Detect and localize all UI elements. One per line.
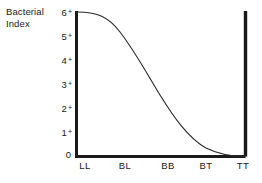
x-tick-bt: BT [200,160,213,171]
plot-area [0,0,262,183]
x-tick-tt: TT [237,160,249,171]
x-tick-bb: BB [161,160,174,171]
axis-frame-left-bottom [77,11,246,157]
x-tick-ll: LL [79,160,90,171]
bacterial-index-chart: Bacterial Index 6+ 5+ 4+ 3+ 2+ 1+ 0 LL B… [0,0,262,183]
bacterial-index-curve [77,12,244,156]
x-tick-bl: BL [119,160,131,171]
